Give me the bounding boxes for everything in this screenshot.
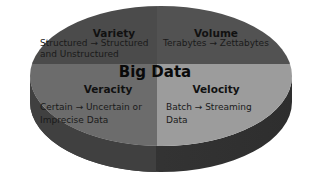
segment-variety-desc-line2: and Unstructured [40, 49, 119, 59]
segment-velocity-desc-line1: Batch → Streaming [166, 102, 252, 112]
segment-veracity-desc-line2: Imprecise Data [40, 115, 108, 125]
big-data-disc-diagram: Variety Structured → Structured and Unst… [0, 0, 310, 186]
segment-volume-desc-line1: Terabytes → Zettabytes [163, 38, 269, 48]
segment-variety-desc-line1: Structured → Structured [40, 38, 148, 48]
segment-velocity-title: Velocity [186, 83, 246, 95]
disc-shape [0, 0, 310, 186]
center-title-big-data: Big Data [0, 63, 310, 81]
segment-velocity-desc-line2: Data [166, 115, 188, 125]
segment-veracity-desc-line1: Certain → Uncertain or [40, 102, 142, 112]
segment-veracity-title: Veracity [78, 83, 138, 95]
